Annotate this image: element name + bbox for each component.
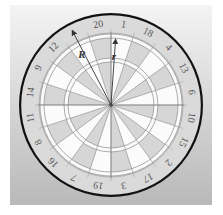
segment-label-20: 20 xyxy=(92,18,104,30)
segment-label-10: 10 xyxy=(186,112,198,124)
dartboard-diagram: 201184136101521731971681114912 Rr xyxy=(0,0,223,215)
segment-label-19: 19 xyxy=(92,180,104,192)
radius-r-text: r xyxy=(112,50,117,62)
segment-label-14: 14 xyxy=(24,86,36,98)
dartboard-figure: 201184136101521731971681114912 Rr R r xyxy=(0,0,223,215)
radius-R-text: R xyxy=(77,48,85,60)
segment-label-11: 11 xyxy=(24,112,36,123)
